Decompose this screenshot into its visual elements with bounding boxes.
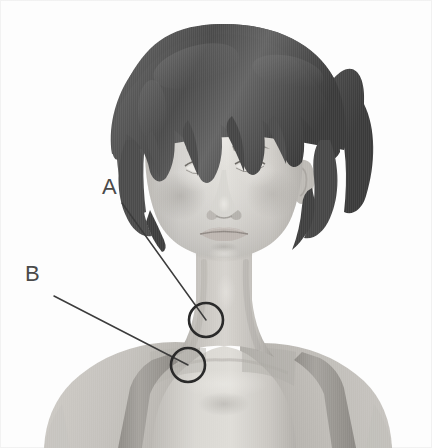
anatomy-figure xyxy=(0,0,432,448)
illustration-canvas: A B xyxy=(0,0,432,448)
render-scanline-texture xyxy=(0,0,432,448)
annotation-label-b: B xyxy=(25,263,40,285)
annotation-label-a: A xyxy=(102,176,117,198)
